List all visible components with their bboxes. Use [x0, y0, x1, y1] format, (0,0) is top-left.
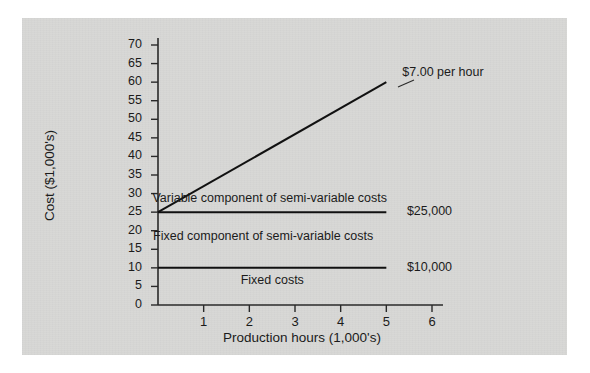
chart-plot-svg — [22, 18, 567, 355]
y-tick-label: 60 — [108, 74, 142, 88]
x-tick-label: 1 — [191, 314, 217, 329]
y-tick-label: 45 — [108, 130, 142, 144]
annotation-10-000: $10,000 — [407, 260, 452, 274]
y-axis-ticks — [151, 45, 158, 305]
annotation-fixed-costs: Fixed costs — [241, 273, 304, 287]
y-tick-label: 0 — [108, 297, 142, 311]
x-tick-label: 4 — [328, 314, 354, 329]
y-tick-label: 30 — [108, 186, 142, 200]
y-tick-label: 65 — [108, 56, 142, 70]
y-tick-label: 70 — [108, 37, 142, 51]
annotation-variable-component-of-semi-variable-costs: Variable component of semi-variable cost… — [152, 191, 387, 205]
slope-annotation-leader-line — [398, 80, 414, 87]
x-tick-label: 5 — [373, 314, 399, 329]
y-tick-label: 10 — [108, 260, 142, 274]
annotation-fixed-component-of-semi-variable-costs: Fixed component of semi-variable costs — [153, 229, 373, 243]
x-tick-label: 2 — [236, 314, 262, 329]
y-tick-label: 20 — [108, 223, 142, 237]
x-axis-title: Production hours (1,000's) — [202, 330, 402, 345]
x-tick-label: 3 — [282, 314, 308, 329]
y-tick-label: 55 — [108, 93, 142, 107]
y-tick-label: 40 — [108, 148, 142, 162]
y-tick-label: 15 — [108, 241, 142, 255]
x-tick-label: 6 — [419, 314, 445, 329]
x-axis-ticks — [204, 305, 432, 312]
chart-figure-panel: Cost ($1,000's) Production hours (1,000'… — [22, 18, 567, 355]
y-axis-title: Cost ($1,000's) — [42, 106, 57, 246]
y-tick-label: 35 — [108, 167, 142, 181]
y-tick-label: 25 — [108, 204, 142, 218]
annotation-7-00-per-hour: $7.00 per hour — [402, 65, 483, 79]
y-tick-label: 50 — [108, 111, 142, 125]
annotation-25-000: $25,000 — [407, 204, 452, 218]
y-tick-label: 5 — [108, 278, 142, 292]
